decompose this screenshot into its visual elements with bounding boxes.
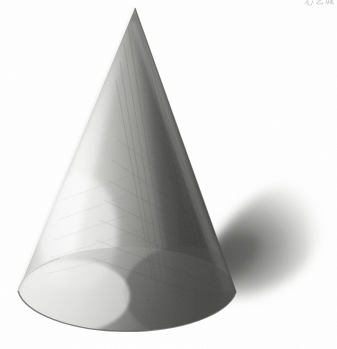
artist-signature: 心艺城 bbox=[305, 0, 335, 7]
cone-body bbox=[0, 0, 337, 349]
cone-figure bbox=[0, 0, 337, 349]
drawing-canvas: 心艺城 bbox=[0, 0, 337, 349]
